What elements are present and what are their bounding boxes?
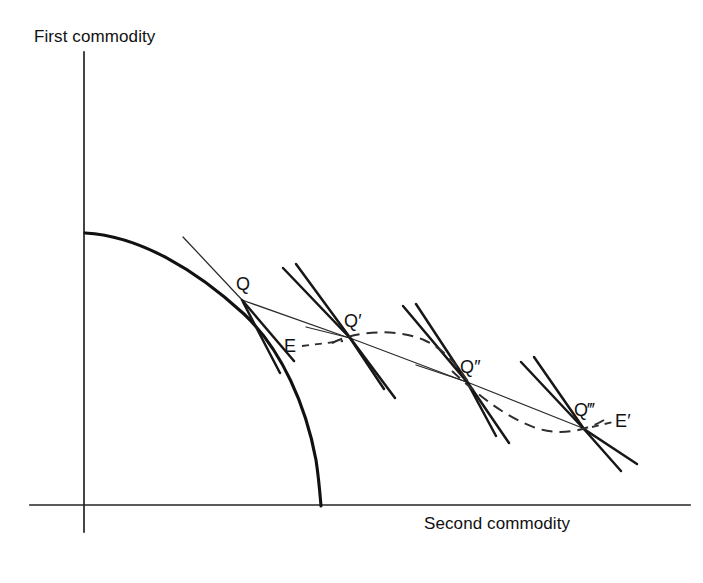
point-label-q-double-prime: Q″ <box>460 358 481 376</box>
point-label-q-prime: Q′ <box>344 312 362 330</box>
production-possibility-frontier <box>85 233 321 506</box>
price-line-qdouble-segment <box>416 365 585 429</box>
tangent-at-qtriple-bold-a <box>521 362 621 471</box>
point-label-e-prime: E′ <box>615 412 631 430</box>
point-label-q: Q <box>236 275 250 293</box>
price-lines-group <box>183 237 585 429</box>
tangent-line-at-q-upper <box>183 237 244 302</box>
axes-group <box>30 52 690 532</box>
figure-canvas <box>0 0 703 583</box>
point-label-e: E <box>284 337 296 355</box>
tangent-lines-group <box>242 264 637 471</box>
ppf-group <box>85 233 321 506</box>
y-axis-title: First commodity <box>34 28 155 45</box>
x-axis-title: Second commodity <box>424 515 570 532</box>
tangent-at-qdouble-bold-a <box>403 306 496 436</box>
tangent-at-qprime-bold-a <box>283 268 384 389</box>
dashed-curves-group <box>302 332 613 432</box>
production-possibility-figure: First commodity Second commodity Q Q′ Q″… <box>0 0 703 583</box>
point-label-q-triple-prime: Q‴ <box>574 401 595 419</box>
tangent-at-qprime-bold-b <box>296 264 395 398</box>
